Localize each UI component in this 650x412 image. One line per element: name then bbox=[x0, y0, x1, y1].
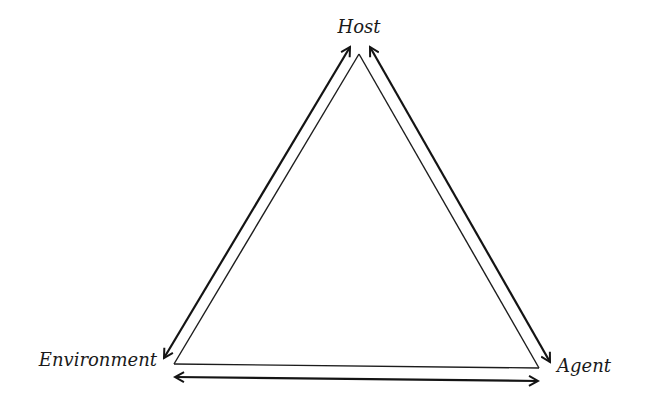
triangle-edge-bottom bbox=[174, 364, 539, 368]
triangle-edge-left bbox=[174, 54, 359, 364]
triangle-diagram: Host Environment Agent bbox=[0, 0, 650, 412]
label-agent: Agent bbox=[555, 355, 612, 376]
label-environment: Environment bbox=[38, 349, 158, 370]
label-host: Host bbox=[336, 16, 381, 37]
triangle-edge-right bbox=[359, 54, 539, 368]
inner-triangle bbox=[174, 54, 539, 368]
arrow-environment-agent bbox=[175, 377, 538, 381]
arrow-host-environment bbox=[164, 47, 350, 358]
arrow-host-agent bbox=[370, 47, 550, 362]
relationship-arrows bbox=[164, 47, 550, 381]
